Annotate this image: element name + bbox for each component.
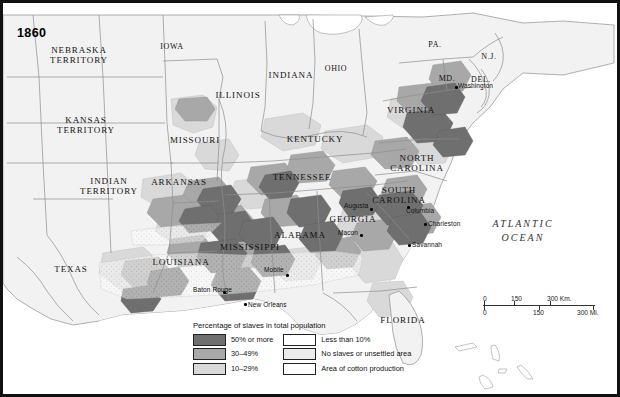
city-dot [223, 291, 226, 294]
city-dot [286, 274, 289, 277]
legend-label: Less than 10% [321, 334, 370, 344]
legend: Percentage of slaves in total population… [193, 321, 425, 375]
legend-swatch [193, 348, 226, 360]
scale-mi-labels: 0 150 300 Mi. [483, 309, 595, 318]
legend-item: 10–29% [193, 363, 273, 375]
scale-km-150: 150 [511, 295, 522, 302]
map-frame: 1860 NEBRASKA TERRITORYKANSAS TERRITORYI… [0, 0, 620, 397]
legend-item: 30–49% [193, 348, 273, 360]
legend-item: No slaves or unsettled area [283, 348, 411, 360]
scale-line [483, 305, 595, 306]
legend-label: 10–29% [231, 363, 258, 373]
legend-swatch [283, 363, 316, 375]
city-dot [408, 244, 411, 247]
city-dot [370, 208, 373, 211]
scale-mi-300: 300 Mi. [577, 309, 599, 316]
city-dot [424, 223, 427, 226]
legend-swatch [283, 334, 316, 346]
legend-swatch [283, 348, 316, 360]
legend-label: No slaves or unsettled area [321, 348, 411, 358]
legend-label: Area of cotton production [321, 363, 404, 373]
scale-km-labels: 0 150 300 Km. [483, 295, 595, 304]
legend-item: Less than 10% [283, 334, 411, 346]
city-dot [244, 303, 247, 306]
city-dot [455, 86, 458, 89]
legend-label: 30–49% [231, 348, 258, 358]
legend-column-left: 50% or more30–49%10–29% [193, 334, 273, 375]
legend-item: 50% or more [193, 334, 273, 346]
city-dot [360, 234, 363, 237]
scale-bar: 0 150 300 Km. 0 150 300 Mi. [483, 295, 595, 318]
legend-swatch [193, 363, 226, 375]
legend-label: 50% or more [231, 334, 273, 344]
legend-column-right: Less than 10%No slaves or unsettled area… [283, 334, 411, 375]
scale-mi-0: 0 [483, 309, 487, 316]
legend-swatch [193, 334, 226, 346]
legend-title: Percentage of slaves in total population [193, 321, 425, 331]
legend-item: Area of cotton production [283, 363, 411, 375]
scale-mi-150: 150 [533, 309, 544, 316]
city-dot [407, 206, 410, 209]
